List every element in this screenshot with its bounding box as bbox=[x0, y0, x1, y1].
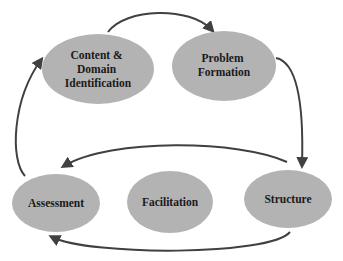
label-line-1: Facilitation bbox=[142, 196, 199, 208]
label-line-1: Structure bbox=[264, 193, 311, 205]
label-line-2: Formation bbox=[198, 66, 251, 78]
arrow-structure-to-assessment-upper bbox=[64, 145, 287, 166]
label-line-1: Content & bbox=[71, 49, 123, 61]
label-line-2: Domain bbox=[77, 63, 117, 75]
label-line-1: Problem bbox=[202, 52, 244, 64]
node-label: Assessment bbox=[28, 197, 84, 209]
arrow-structure-to-assessment-lower bbox=[52, 232, 290, 251]
node-assessment: Assessment bbox=[12, 174, 100, 232]
label-line-3: Identification bbox=[65, 77, 132, 89]
node-label: Structure bbox=[264, 193, 311, 205]
arrow-content-to-problem bbox=[108, 13, 212, 32]
process-cycle-diagram: Content & Domain Identification Problem … bbox=[0, 0, 343, 261]
node-problem-formation: Problem Formation bbox=[172, 31, 276, 101]
node-structure: Structure bbox=[244, 170, 332, 228]
arrow-problem-to-structure bbox=[276, 58, 302, 165]
node-label: Facilitation bbox=[142, 196, 199, 208]
node-facilitation: Facilitation bbox=[127, 171, 213, 233]
node-content-domain-identification: Content & Domain Identification bbox=[42, 34, 154, 104]
arrow-assessment-to-content bbox=[16, 60, 41, 176]
label-line-1: Assessment bbox=[28, 197, 84, 209]
